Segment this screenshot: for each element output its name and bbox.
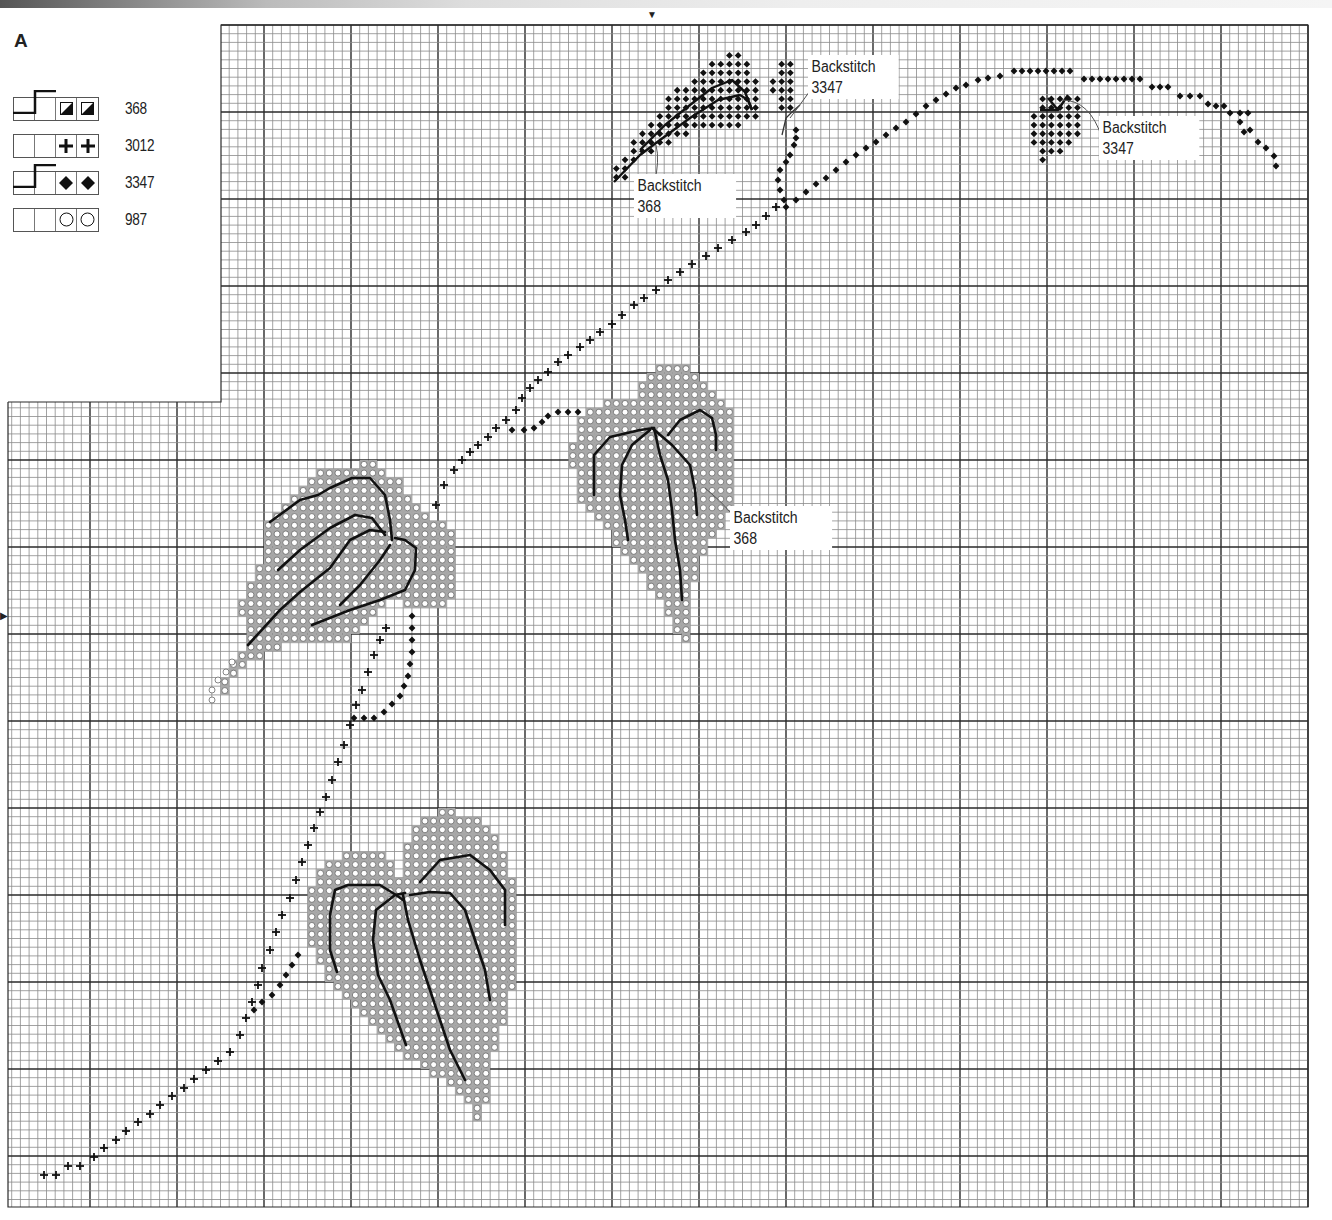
leaf-motifs xyxy=(209,364,734,1121)
center-left-arrow-icon: ▶ xyxy=(0,611,8,621)
callout-backstitch-3347-right: Backstitch3347 xyxy=(1099,116,1199,160)
callout-backstitch-368-top: Backstitch368 xyxy=(634,174,736,218)
callout-backstitch-3347-top: Backstitch3347 xyxy=(808,55,899,99)
vine-stitches xyxy=(40,68,1279,1179)
callout-backstitch-368-mid: Backstitch368 xyxy=(730,506,832,550)
center-top-arrow-icon: ▼ xyxy=(647,10,657,20)
